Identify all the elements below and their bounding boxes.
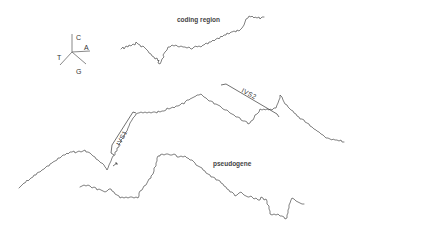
axis-g — [72, 52, 86, 64]
ivs1-small-arrow — [113, 163, 117, 166]
pseudogene-label: pseudogene — [213, 160, 252, 168]
ivs1-label: IVS1 — [115, 129, 129, 146]
nucleotide-axes-legend: C A T G — [57, 34, 90, 75]
coding-region-label: coding region — [177, 16, 220, 24]
ivs2-label: IVS2 — [241, 87, 258, 101]
ivs1-arrow-tick — [111, 153, 114, 155]
axis-label-g: G — [76, 68, 81, 75]
axis-t — [60, 52, 72, 65]
ivs2-annotation: IVS2 — [221, 84, 279, 117]
axis-a — [72, 51, 90, 52]
coding-region-trace — [121, 16, 264, 64]
genomic-gene-trace — [19, 94, 344, 188]
axis-label-c: C — [76, 34, 81, 41]
pseudogene-trace — [80, 154, 304, 219]
dna-walk-diagram: C A T G coding region IVS1 IVS2 pseudoge… — [0, 0, 431, 244]
axis-label-t: T — [57, 54, 62, 61]
axis-label-a: A — [84, 44, 89, 51]
